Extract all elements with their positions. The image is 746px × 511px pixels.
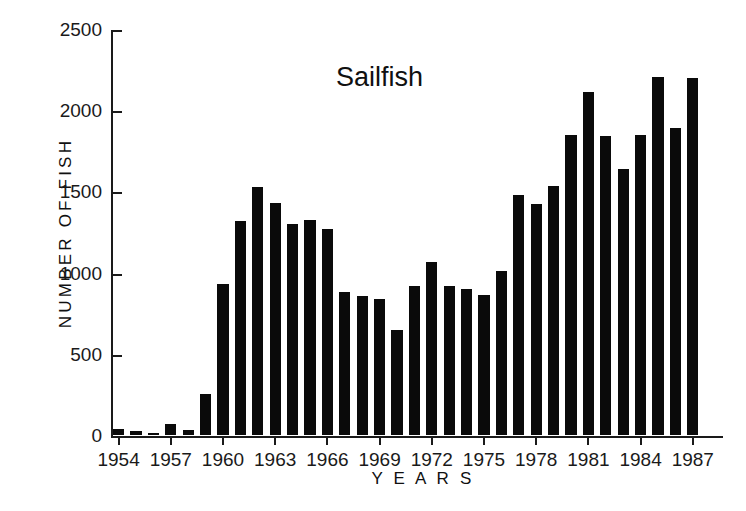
x-tick-mark <box>222 436 224 445</box>
bar <box>600 136 611 435</box>
bar <box>687 78 698 435</box>
x-tick-label: 1969 <box>358 449 400 471</box>
y-tick-label: 2500 <box>60 19 102 41</box>
bar <box>322 229 333 435</box>
bar <box>635 135 646 435</box>
bar <box>252 187 263 435</box>
x-tick-label: 1960 <box>202 449 244 471</box>
x-tick-label: 1984 <box>619 449 661 471</box>
bar <box>270 203 281 435</box>
y-tick: 1000 <box>111 274 112 275</box>
x-tick-mark <box>535 436 537 445</box>
bar <box>200 394 211 435</box>
y-tick-label: 1000 <box>60 263 102 285</box>
bar <box>565 135 576 435</box>
plot-area: 05001000150020002500 1954195719601963196… <box>111 30 723 437</box>
bar <box>374 299 385 435</box>
x-tick-mark <box>379 436 381 445</box>
bar <box>618 169 629 435</box>
y-axis-label: NUMBER OF FISH <box>44 18 88 448</box>
sailfish-bar-chart: NUMBER OF FISH Sailfish 0500100015002000… <box>0 0 746 511</box>
y-tick: 0 <box>111 436 112 437</box>
bar <box>461 289 472 435</box>
bar <box>357 296 368 435</box>
bar <box>148 433 159 435</box>
x-tick-label: 1981 <box>567 449 609 471</box>
x-tick-mark <box>483 436 485 445</box>
y-tick: 2000 <box>111 111 112 112</box>
bar <box>339 292 350 435</box>
x-tick-label: 1963 <box>254 449 296 471</box>
bar <box>496 271 507 435</box>
x-tick-label: 1978 <box>515 449 557 471</box>
bar <box>287 224 298 435</box>
x-tick-mark <box>587 436 589 445</box>
y-tick-mark <box>113 111 122 113</box>
x-axis-line <box>111 436 723 438</box>
y-tick-mark <box>113 274 122 276</box>
bar <box>478 295 489 435</box>
x-tick-mark <box>274 436 276 445</box>
x-tick-label: 1975 <box>463 449 505 471</box>
y-tick: 1500 <box>111 192 112 193</box>
x-tick-mark <box>692 436 694 445</box>
x-tick-mark <box>431 436 433 445</box>
x-tick-label: 1987 <box>672 449 714 471</box>
x-tick-label: 1966 <box>306 449 348 471</box>
bar <box>652 77 663 435</box>
y-tick-mark <box>113 30 122 32</box>
bar <box>217 284 228 435</box>
y-tick: 2500 <box>111 30 112 31</box>
x-tick-mark <box>640 436 642 445</box>
x-axis-label: Y E A R S <box>0 469 746 489</box>
x-tick-mark <box>170 436 172 445</box>
bar <box>548 186 559 435</box>
y-tick-label: 500 <box>70 344 102 366</box>
bar <box>583 92 594 435</box>
x-tick-label: 1957 <box>150 449 192 471</box>
bar <box>113 429 124 435</box>
bar <box>409 286 420 435</box>
y-tick-mark <box>113 192 122 194</box>
y-tick: 500 <box>111 355 112 356</box>
y-tick-mark <box>113 355 122 357</box>
y-tick-label: 1500 <box>60 181 102 203</box>
x-tick-label: 1954 <box>97 449 139 471</box>
y-axis-line <box>111 30 113 438</box>
bar <box>670 128 681 435</box>
x-tick-mark <box>326 436 328 445</box>
x-tick-label: 1972 <box>411 449 453 471</box>
x-tick-mark <box>118 436 120 445</box>
bar <box>426 262 437 435</box>
bar <box>531 204 542 435</box>
bar <box>391 330 402 435</box>
bar <box>165 424 176 435</box>
bar <box>513 195 524 435</box>
bar <box>444 286 455 435</box>
bar <box>183 430 194 435</box>
y-tick-label: 2000 <box>60 100 102 122</box>
y-tick-label: 0 <box>91 425 102 447</box>
bar <box>304 220 315 435</box>
bar <box>235 221 246 435</box>
bar <box>130 431 141 435</box>
